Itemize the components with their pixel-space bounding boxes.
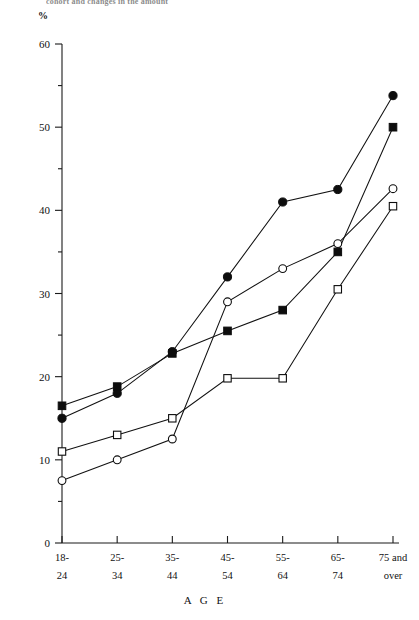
- data-point-marker: [279, 375, 286, 382]
- data-point-marker: [334, 248, 342, 256]
- data-point-marker: [58, 448, 65, 455]
- data-point-marker: [223, 273, 231, 281]
- y-tick-label: 50: [39, 121, 51, 133]
- series-layer: [58, 92, 397, 485]
- x-tick-label: 55-: [276, 552, 291, 563]
- data-point-marker: [113, 456, 121, 464]
- y-tick-label: 20: [39, 371, 51, 383]
- x-tick-label: 64: [277, 570, 288, 581]
- data-point-marker: [279, 198, 287, 206]
- data-point-marker: [389, 185, 397, 193]
- y-axis: 0102030405060: [39, 38, 62, 549]
- series-filled-square: [58, 123, 397, 409]
- y-tick-label: 60: [39, 38, 51, 50]
- x-tick-label: 24: [57, 570, 68, 581]
- data-point-marker: [114, 431, 121, 438]
- data-point-marker: [224, 375, 231, 382]
- data-point-marker: [113, 383, 121, 391]
- x-tick-label: 18-: [55, 552, 70, 563]
- data-point-marker: [334, 185, 342, 193]
- data-point-marker: [389, 203, 396, 210]
- data-point-marker: [169, 350, 177, 358]
- x-axis: 18-2425-3435-4445-5455-6465-7475 andover: [55, 536, 408, 581]
- series-filled-circle: [58, 92, 397, 423]
- series-line: [62, 127, 393, 406]
- chart-canvas: 0102030405060 18-2425-3435-4445-5455-646…: [0, 0, 419, 620]
- data-point-marker: [169, 415, 176, 422]
- y-tick-label: 30: [39, 288, 51, 300]
- y-tick-label: 10: [39, 454, 51, 466]
- data-point-marker: [334, 286, 341, 293]
- x-tick-label: 25-: [110, 552, 125, 563]
- x-tick-label: 34: [112, 570, 123, 581]
- x-tick-label: 75 and: [379, 552, 408, 563]
- line-chart-figure: cohort and changes in the amount % 01020…: [0, 0, 419, 620]
- x-tick-label: over: [384, 570, 403, 581]
- x-tick-label: 54: [222, 570, 233, 581]
- x-tick-label: 74: [333, 570, 344, 581]
- data-point-marker: [279, 265, 287, 273]
- data-point-marker: [224, 327, 232, 335]
- data-point-marker: [389, 123, 397, 131]
- series-line: [62, 96, 393, 419]
- x-tick-label: 45-: [221, 552, 236, 563]
- x-axis-title: A G E: [184, 594, 227, 606]
- x-tick-label: 65-: [331, 552, 346, 563]
- data-point-marker: [279, 306, 287, 314]
- data-point-marker: [58, 477, 66, 485]
- data-point-marker: [389, 92, 397, 100]
- data-point-marker: [224, 298, 232, 306]
- data-point-marker: [334, 240, 342, 248]
- y-tick-label: 40: [39, 204, 51, 216]
- y-tick-label: 0: [45, 537, 51, 549]
- data-point-marker: [58, 402, 66, 410]
- data-point-marker: [58, 414, 66, 422]
- x-tick-label: 35-: [165, 552, 180, 563]
- data-point-marker: [168, 435, 176, 443]
- x-tick-label: 44: [167, 570, 178, 581]
